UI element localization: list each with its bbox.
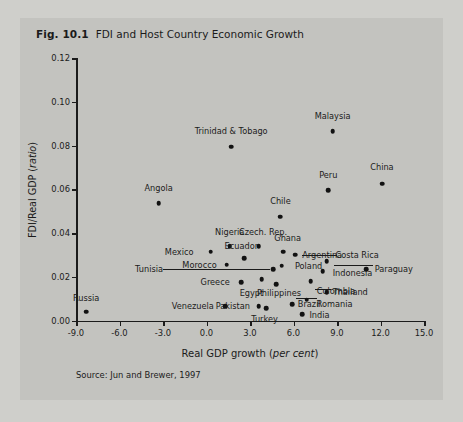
- data-point[interactable]: [293, 253, 298, 258]
- x-axis-tick-label: 0.0: [200, 328, 213, 338]
- data-point-label: Brazil: [298, 300, 321, 308]
- y-axis-tick-label: 0.04: [51, 228, 70, 238]
- data-point[interactable]: [300, 312, 305, 317]
- data-point-label: Pakistan: [216, 302, 250, 310]
- y-axis-tick: [72, 277, 77, 279]
- figure-title: Fig. 10.1FDI and Host Country Economic G…: [36, 28, 304, 40]
- data-point[interactable]: [290, 302, 295, 307]
- data-point-label: Poland: [295, 262, 322, 270]
- x-axis-tick: [294, 321, 296, 326]
- y-axis-tick-label: 0.00: [51, 316, 70, 326]
- x-axis-tick-label: -6.0: [111, 328, 127, 338]
- x-axis-tick: [120, 321, 122, 326]
- data-point[interactable]: [256, 304, 261, 309]
- data-point[interactable]: [209, 249, 214, 254]
- data-point[interactable]: [280, 264, 285, 269]
- y-axis-label: FDI/Real GDP (ratio): [27, 142, 38, 238]
- x-axis-tick: [424, 321, 426, 326]
- data-point[interactable]: [380, 181, 385, 186]
- x-axis-tick-label: 3.0: [243, 328, 256, 338]
- y-axis-tick: [72, 189, 77, 191]
- data-point[interactable]: [225, 262, 230, 267]
- data-point-label: Ecuador: [225, 242, 258, 250]
- y-axis-tick-label: 0.10: [51, 97, 70, 107]
- data-point-label: Mexico: [165, 248, 194, 256]
- data-point[interactable]: [242, 256, 247, 261]
- data-point[interactable]: [264, 306, 269, 311]
- x-axis-tick: [76, 321, 78, 326]
- data-point[interactable]: [281, 249, 286, 254]
- source-note: Source: Jun and Brewer, 1997: [76, 370, 201, 380]
- data-point[interactable]: [239, 280, 244, 285]
- data-point-label: Turkey: [251, 315, 278, 323]
- x-axis-tick: [337, 321, 339, 326]
- x-axis-tick-label: 12.0: [371, 328, 390, 338]
- data-point-label: Thailand: [333, 288, 368, 296]
- data-point[interactable]: [325, 290, 330, 295]
- label-leader-line: [334, 265, 373, 266]
- data-point-label: Peru: [319, 171, 337, 179]
- data-point-label: India: [309, 311, 329, 319]
- y-axis-tick: [72, 233, 77, 235]
- data-point[interactable]: [156, 201, 161, 206]
- data-point[interactable]: [259, 277, 264, 282]
- y-axis-tick: [72, 146, 77, 148]
- x-axis-tick-label: 6.0: [287, 328, 300, 338]
- data-point[interactable]: [229, 144, 234, 149]
- data-point[interactable]: [320, 269, 325, 274]
- data-point-label: Venezuela: [172, 302, 214, 310]
- x-axis-tick-label: 15.0: [415, 328, 434, 338]
- data-point-label: Philippines: [257, 289, 301, 297]
- figure-number: Fig. 10.1: [36, 28, 89, 40]
- data-point-label: Chile: [270, 197, 291, 205]
- data-point[interactable]: [330, 129, 335, 134]
- data-point[interactable]: [364, 267, 369, 272]
- data-point[interactable]: [271, 267, 276, 272]
- data-point-label: Ghana: [274, 234, 301, 242]
- label-leader-line: [163, 269, 270, 270]
- x-axis-tick: [250, 321, 252, 326]
- data-point[interactable]: [274, 282, 279, 287]
- x-axis-tick: [163, 321, 165, 326]
- data-point[interactable]: [84, 309, 89, 314]
- x-axis-tick: [381, 321, 383, 326]
- x-axis-tick-label: -3.0: [155, 328, 171, 338]
- data-point-label: Malaysia: [315, 112, 351, 120]
- data-point[interactable]: [309, 279, 314, 284]
- scatter-plot: FDI/Real GDP (ratio) Real GDP growth (pe…: [76, 58, 424, 348]
- data-point-label: Morocco: [182, 261, 216, 269]
- data-point-label: Angola: [144, 184, 172, 192]
- data-point-label: Costa Rica: [336, 251, 379, 259]
- y-axis-tick-label: 0.12: [51, 53, 70, 63]
- data-point-label: Romania: [317, 300, 353, 308]
- data-point-label: Greece: [201, 278, 230, 286]
- data-point-label: Trinidad & Tobago: [195, 127, 268, 135]
- x-axis-label: Real GDP growth (per cent): [182, 348, 319, 359]
- figure-panel: Fig. 10.1FDI and Host Country Economic G…: [20, 18, 443, 400]
- y-axis-tick-label: 0.08: [51, 141, 70, 151]
- data-point[interactable]: [278, 214, 283, 219]
- data-point[interactable]: [325, 259, 330, 264]
- y-axis-tick-label: 0.02: [51, 272, 70, 282]
- x-axis-tick-label: 9.0: [330, 328, 343, 338]
- y-axis-tick: [72, 58, 77, 60]
- figure-title-text: FDI and Host Country Economic Growth: [96, 28, 304, 40]
- data-point-label: Paraguay: [375, 265, 413, 273]
- x-axis-tick: [207, 321, 209, 326]
- data-point-label: China: [370, 163, 393, 171]
- data-point-label: Russia: [73, 294, 99, 302]
- data-point-label: Tunisia: [135, 265, 163, 273]
- y-axis-tick-label: 0.06: [51, 184, 70, 194]
- data-point[interactable]: [326, 188, 331, 193]
- y-axis-tick: [72, 102, 77, 104]
- x-axis-tick-label: -9.0: [68, 328, 84, 338]
